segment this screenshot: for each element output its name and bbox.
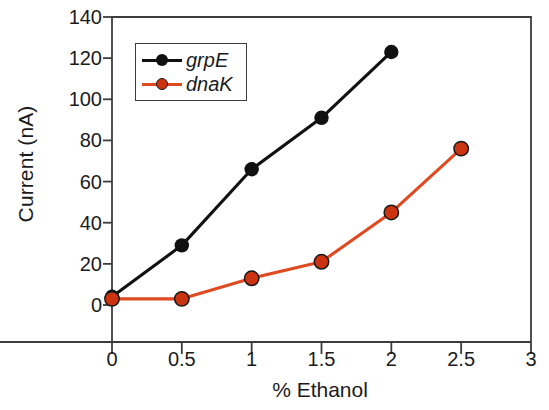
x-tick-label-2: 2 (361, 348, 421, 371)
legend-swatch-grpE (142, 52, 182, 68)
series-line-dnaK (112, 149, 461, 299)
data-point-dnaK-0.5 (175, 292, 189, 306)
data-point-dnaK-1 (244, 271, 258, 285)
legend-item-grpE: grpE (142, 49, 228, 71)
y-tick-label-60: 60 (44, 170, 102, 193)
legend-label-dnaK: dnaK (186, 74, 233, 94)
y-tick-label-40: 40 (44, 211, 102, 234)
x-tick-label-2.5: 2.5 (431, 348, 491, 371)
y-tick-label-20: 20 (44, 252, 102, 275)
x-axis-title: % Ethanol (170, 378, 470, 402)
y-tick-label-140: 140 (44, 6, 102, 29)
data-point-grpE-1 (244, 162, 258, 176)
legend-swatch-dnaK (142, 76, 182, 92)
legend-marker-dnaK (156, 78, 168, 90)
y-tick-label-100: 100 (44, 88, 102, 111)
x-tick-label-1.5: 1.5 (292, 348, 352, 371)
x-tick-label-1: 1 (222, 348, 282, 371)
legend-marker-grpE (156, 54, 168, 66)
data-point-grpE-1.5 (314, 111, 328, 125)
y-tick-label-80: 80 (44, 129, 102, 152)
x-tick-label-0.5: 0.5 (152, 348, 212, 371)
chart-figure: 020406080100120140 00.511.522.53 Current… (0, 0, 549, 410)
legend: grpE dnaK (135, 43, 247, 101)
x-tick-label-0: 0 (82, 348, 142, 371)
data-point-dnaK-0 (105, 292, 119, 306)
data-point-grpE-0.5 (175, 238, 189, 252)
x-tick-label-3: 3 (501, 348, 549, 371)
data-point-grpE-2 (384, 45, 398, 59)
y-axis-title: Current (nA) (14, 74, 38, 254)
data-point-dnaK-2 (384, 205, 398, 219)
y-tick-label-120: 120 (44, 47, 102, 70)
data-point-dnaK-1.5 (314, 255, 328, 269)
data-point-dnaK-2.5 (454, 141, 468, 155)
y-tick-label-0: 0 (44, 294, 102, 317)
legend-label-grpE: grpE (186, 50, 228, 70)
legend-item-dnaK: dnaK (142, 73, 233, 95)
